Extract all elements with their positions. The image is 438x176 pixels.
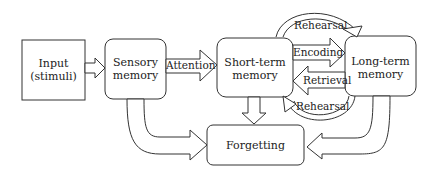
input-label-line1: Input	[22, 57, 85, 70]
short-term-label-line1: Short-term	[217, 56, 293, 69]
short-term-memory-label: Short-term memory	[217, 56, 293, 82]
sensory-label-line1: Sensory	[105, 56, 166, 69]
input-label: Input (stimuli)	[22, 57, 85, 83]
input-to-sensory-arrow	[85, 58, 105, 78]
input-label-line2: (stimuli)	[22, 70, 85, 83]
retrieval-label: Retrieval	[303, 74, 345, 87]
attention-label: Attention	[166, 59, 202, 72]
long-term-label-line2: memory	[345, 68, 416, 81]
sensory-memory-label: Sensory memory	[105, 56, 166, 82]
short-term-label-line2: memory	[217, 69, 293, 82]
encoding-label: Encoding	[293, 46, 335, 59]
sensory-label-line2: memory	[105, 69, 166, 82]
rehearsal-bottom-label: Rehearsal	[296, 100, 346, 113]
long-term-memory-label: Long-term memory	[345, 55, 416, 81]
rehearsal-bottom-arrowhead	[283, 96, 296, 112]
long-term-label-line1: Long-term	[345, 55, 416, 68]
forgetting-label: Forgetting	[207, 139, 304, 152]
sensory-to-forgetting-arrow	[127, 99, 207, 160]
rehearsal-top-label: Rehearsal	[294, 19, 344, 32]
stm-to-forgetting-arrow	[242, 97, 266, 124]
